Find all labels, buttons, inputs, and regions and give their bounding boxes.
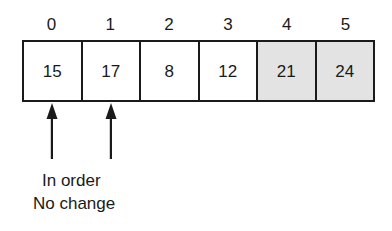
array-cell-shaded: 21	[258, 42, 317, 100]
up-arrow-icon	[104, 103, 118, 159]
array-sorting-diagram: 0 1 2 3 4 5 15 17 8 12 21 24	[0, 0, 392, 231]
pointer-index-1	[104, 103, 118, 159]
array-cell-value: 21	[277, 63, 296, 80]
caption-line-no-change: No change	[33, 193, 115, 214]
array-index-label: 4	[257, 14, 316, 36]
array-container: 15 17 8 12 21 24	[22, 40, 375, 102]
array-index-label: 5	[316, 14, 375, 36]
array-index-label: 2	[140, 14, 199, 36]
array-cell-value: 17	[101, 63, 120, 80]
array-cell-shaded: 24	[317, 42, 374, 100]
array-index-label: 0	[22, 14, 81, 36]
pointer-index-0	[45, 103, 59, 159]
array-cell-value: 15	[43, 63, 62, 80]
array-cell: 12	[200, 42, 259, 100]
array-index-row: 0 1 2 3 4 5	[22, 14, 375, 36]
array-cell: 15	[24, 42, 83, 100]
array-cell-value: 12	[218, 63, 237, 80]
array-cell: 17	[83, 42, 142, 100]
array-index-label: 3	[198, 14, 257, 36]
up-arrow-icon	[45, 103, 59, 159]
array-cell: 8	[141, 42, 200, 100]
array-cell-value: 8	[165, 63, 174, 80]
caption-line-in-order: In order	[42, 170, 101, 191]
array-cell-value: 24	[335, 63, 354, 80]
array-index-label: 1	[81, 14, 140, 36]
